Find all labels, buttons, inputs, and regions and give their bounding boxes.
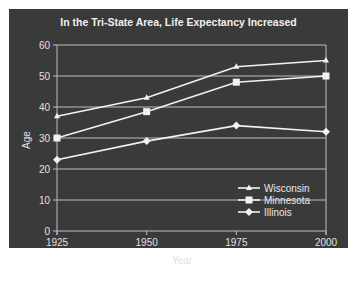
series-line-wisconsin — [57, 61, 326, 117]
diamond-marker — [322, 128, 330, 136]
series-line-illinois — [57, 126, 326, 160]
square-marker — [54, 135, 61, 142]
y-tick-label: 10 — [39, 195, 51, 206]
line-chart: 01020304050601925195019752000YearAgeWisc… — [0, 0, 357, 285]
triangle-marker — [323, 57, 329, 63]
diamond-marker — [53, 156, 61, 164]
legend-diamond-icon — [245, 208, 253, 216]
square-marker — [323, 73, 330, 80]
y-tick-label: 20 — [39, 164, 51, 175]
y-tick-label: 40 — [39, 102, 51, 113]
y-tick-label: 50 — [39, 71, 51, 82]
y-tick-label: 0 — [44, 226, 50, 237]
y-tick-label: 60 — [39, 40, 51, 51]
legend-label: Wisconsin — [264, 183, 310, 194]
square-marker — [143, 108, 150, 115]
diamond-marker — [232, 122, 240, 130]
y-tick-label: 30 — [39, 133, 51, 144]
x-tick-label: 1975 — [225, 237, 248, 248]
legend-label: Illinois — [264, 207, 292, 218]
y-axis-label: Age — [21, 131, 32, 149]
x-tick-label: 1950 — [136, 237, 159, 248]
legend-square-icon — [246, 197, 253, 204]
legend-label: Minnesota — [264, 195, 311, 206]
x-tick-label: 2000 — [315, 237, 338, 248]
x-tick-label: 1925 — [46, 237, 69, 248]
x-axis-label: Year — [172, 255, 193, 266]
square-marker — [233, 79, 240, 86]
